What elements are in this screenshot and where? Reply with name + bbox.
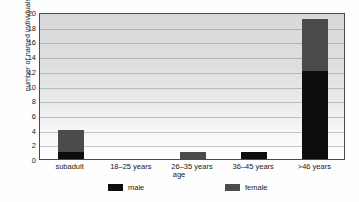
y-axis-tick-label: 6 — [32, 111, 36, 120]
x-axis-label: age — [39, 170, 345, 179]
x-axis-label-text: age — [173, 170, 186, 179]
bar-chart-figure: number of named individuals 024681012141… — [0, 0, 359, 202]
y-axis-tick-label: 12 — [28, 67, 36, 76]
bar-segment-male[interactable] — [241, 152, 267, 159]
y-axis-tick-label: 18 — [28, 23, 36, 32]
gridline — [40, 58, 344, 59]
plot-area — [39, 13, 345, 160]
y-axis-tick-label: 14 — [28, 53, 36, 62]
legend-label-male: male — [128, 183, 144, 192]
y-axis-tick-label: 2 — [32, 141, 36, 150]
legend-swatch-male — [108, 184, 123, 191]
legend-item-male[interactable]: male — [108, 183, 144, 192]
y-axis-tick-labels: 02468101214161820 — [18, 13, 36, 160]
chart-legend: malefemale — [39, 183, 345, 197]
gridline — [40, 132, 344, 133]
bar-segment-female[interactable] — [302, 19, 328, 70]
bar-segment-female[interactable] — [58, 130, 84, 152]
y-axis-tick-label: 8 — [32, 97, 36, 106]
legend-swatch-female — [225, 184, 240, 191]
bar-segment-male[interactable] — [302, 71, 328, 159]
gridline — [40, 88, 344, 89]
gridline — [40, 146, 344, 147]
gridline — [40, 117, 344, 118]
y-axis-tick-label: 16 — [28, 38, 36, 47]
y-axis-tick-label: 4 — [32, 126, 36, 135]
legend-item-female[interactable]: female — [225, 183, 268, 192]
y-axis-tick-label: 0 — [32, 156, 36, 165]
gridline — [40, 29, 344, 30]
gridline — [40, 43, 344, 44]
y-axis-tick-label: 10 — [28, 82, 36, 91]
bar-segment-male[interactable] — [58, 152, 84, 159]
y-axis-tick-label: 20 — [28, 9, 36, 18]
gridline — [40, 102, 344, 103]
gridline — [40, 73, 344, 74]
legend-label-female: female — [245, 183, 268, 192]
bar-segment-female[interactable] — [180, 152, 206, 159]
